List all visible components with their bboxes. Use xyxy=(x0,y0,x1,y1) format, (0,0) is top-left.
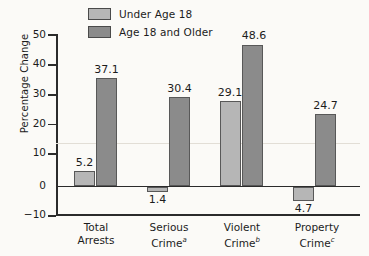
bar-value-under-age-18-property-crime: 4.7 xyxy=(287,202,320,215)
chart-legend: Under Age 18 Age 18 and Older xyxy=(88,6,213,42)
legend-item-under-age-18: Under Age 18 xyxy=(88,6,213,21)
y-tick-label-40: 40 xyxy=(20,57,46,69)
bar-age-18-and-older-serious-crime xyxy=(169,97,190,185)
y-tick-mark-30 xyxy=(48,94,56,96)
y-tick-label-50: 50 xyxy=(20,28,46,40)
bar-value-age-18-and-older-total-arrests: 37.1 xyxy=(90,63,123,76)
category-line2-total-arrests: Arrests xyxy=(78,234,115,246)
legend-swatch-icon-under-age-18 xyxy=(88,8,111,20)
category-label-violent-crime: Violent Crimeb xyxy=(204,221,280,249)
y-tick-20: 20 xyxy=(14,117,46,129)
bar-age-18-and-older-violent-crime xyxy=(242,45,263,186)
category-label-property-crime: Property Crimec xyxy=(277,221,357,249)
y-tick-10: 10 xyxy=(14,146,46,158)
category-line1-violent-crime: Violent xyxy=(224,221,260,233)
y-tick-label-neg10: −10 xyxy=(20,208,46,220)
bar-value-age-18-and-older-serious-crime: 30.4 xyxy=(163,82,196,95)
zero-axis-line xyxy=(56,186,360,188)
legend-label-under-age-18: Under Age 18 xyxy=(119,8,192,20)
y-tick-40: 40 xyxy=(14,57,46,69)
y-tick-mark-neg10 xyxy=(48,215,56,217)
category-line2-property-crime: Crime xyxy=(299,236,330,248)
category-line2-violent-crime: Crime xyxy=(224,236,255,248)
y-axis-line xyxy=(56,34,58,215)
category-line1-total-arrests: Total xyxy=(84,221,109,233)
category-line1-serious-crime: Serious xyxy=(150,221,189,233)
bar-under-age-18-property-crime xyxy=(293,187,314,201)
y-tick-mark-20 xyxy=(48,124,56,126)
bar-under-age-18-total-arrests xyxy=(74,171,95,186)
bar-chart: Under Age 18 Age 18 and Older Percentage… xyxy=(0,0,369,256)
y-tick-mark-10 xyxy=(48,153,56,155)
y-tick-label-20: 20 xyxy=(20,117,46,129)
legend-item-age-18-and-older: Age 18 and Older xyxy=(88,24,213,39)
legend-swatch-icon-age-18-and-older xyxy=(88,26,111,38)
category-footnote-marker-violent-crime: b xyxy=(255,236,259,244)
y-tick-neg10: −10 xyxy=(14,208,46,220)
bar-value-under-age-18-serious-crime: 1.4 xyxy=(141,193,174,206)
y-tick-mark-40 xyxy=(48,64,56,66)
legend-label-age-18-and-older: Age 18 and Older xyxy=(119,26,213,38)
category-label-serious-crime: Serious Crimea xyxy=(131,221,207,249)
y-tick-label-30: 30 xyxy=(20,87,46,99)
y-tick-0: 0 xyxy=(14,179,46,191)
y-tick-50: 50 xyxy=(14,28,46,40)
y-tick-mark-50 xyxy=(48,34,56,36)
bar-under-age-18-violent-crime xyxy=(220,101,241,185)
category-label-total-arrests: Total Arrests xyxy=(58,221,134,246)
bar-value-age-18-and-older-property-crime: 24.7 xyxy=(309,99,342,112)
category-footnote-marker-serious-crime: a xyxy=(182,236,186,244)
category-footnote-marker-property-crime: c xyxy=(331,236,335,244)
bar-age-18-and-older-total-arrests xyxy=(96,78,117,186)
bar-age-18-and-older-property-crime xyxy=(315,114,336,186)
bar-value-age-18-and-older-violent-crime: 48.6 xyxy=(236,29,272,42)
category-line1-property-crime: Property xyxy=(295,221,339,233)
category-line2-serious-crime: Crime xyxy=(151,236,182,248)
y-tick-label-10: 10 xyxy=(20,146,46,158)
y-tick-30: 30 xyxy=(14,87,46,99)
bar-under-age-18-serious-crime xyxy=(147,187,168,192)
y-tick-label-0: 0 xyxy=(20,179,46,191)
